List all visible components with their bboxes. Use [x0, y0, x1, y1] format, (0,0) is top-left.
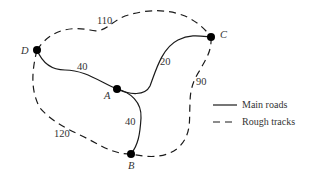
- node-label-A: A: [103, 90, 111, 101]
- node-B: [127, 150, 135, 158]
- node-label-D: D: [20, 45, 29, 56]
- weight-D-C: 110: [97, 15, 112, 26]
- legend-rough-track-label: Rough tracks: [242, 116, 295, 127]
- road-network-diagram: D C A B 110 40 20 90 40 120 Main roads R…: [0, 0, 317, 183]
- edge-C-B-rough-track: [131, 37, 211, 156]
- weight-A-B: 40: [125, 116, 136, 127]
- node-A: [113, 85, 121, 93]
- edge-D-C-rough-track: [37, 11, 211, 50]
- weight-D-A: 40: [77, 61, 88, 72]
- node-D: [33, 46, 41, 54]
- weight-A-C: 20: [160, 56, 171, 67]
- weight-C-B: 90: [196, 76, 207, 87]
- node-label-B: B: [128, 160, 135, 171]
- weight-D-B: 120: [54, 128, 70, 139]
- node-C: [207, 33, 215, 41]
- node-label-C: C: [220, 29, 228, 40]
- legend: Main roads Rough tracks: [213, 99, 295, 127]
- legend-main-road-label: Main roads: [242, 99, 287, 110]
